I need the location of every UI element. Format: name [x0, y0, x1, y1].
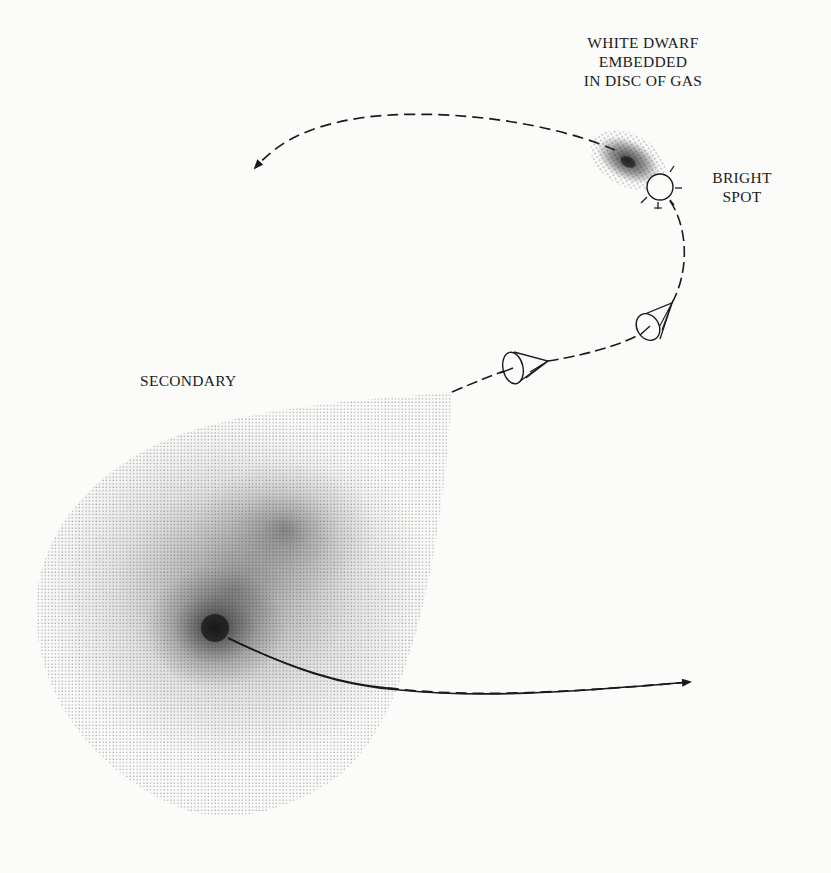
- gas-stream-path: [452, 198, 684, 392]
- white-dwarf-label-line-3: IN DISC OF GAS: [563, 71, 723, 90]
- white-dwarf-label-line-2: EMBEDDED: [563, 52, 723, 71]
- bright-spot-label-line-2: SPOT: [692, 187, 792, 206]
- secondary-orbit-dashes: [388, 682, 690, 693]
- white-dwarf-orbit-arrow: [255, 114, 615, 168]
- white-dwarf-label-line-1: WHITE DWARF: [563, 33, 723, 52]
- observer-cone-1: [500, 350, 548, 385]
- observer-cone-2: [631, 303, 672, 345]
- secondary-label: SECONDARY: [140, 371, 237, 390]
- secondary-star: [35, 392, 452, 816]
- bright-spot-label: BRIGHT SPOT: [692, 168, 792, 206]
- bright-spot-label-line-1: BRIGHT: [692, 168, 792, 187]
- binary-star-diagram: [0, 0, 831, 873]
- secondary-label-text: SECONDARY: [140, 372, 237, 389]
- white-dwarf-label: WHITE DWARF EMBEDDED IN DISC OF GAS: [563, 33, 723, 90]
